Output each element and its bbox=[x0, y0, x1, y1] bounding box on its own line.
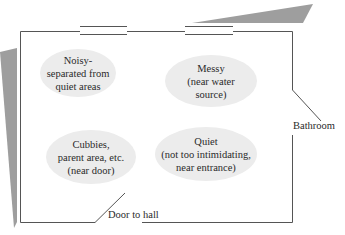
zone-cubbies-label: Cubbies, parent area, etc. (near door) bbox=[58, 138, 124, 177]
floor-plan-drawing bbox=[0, 0, 345, 235]
top-right-shadow bbox=[192, 4, 313, 23]
zone-messy-label: Messy (near water source) bbox=[187, 62, 235, 101]
zone-noisy: Noisy- separated from quiet areas bbox=[40, 49, 116, 97]
door-to-hall-label: Door to hall bbox=[108, 209, 159, 220]
zone-noisy-label: Noisy- separated from quiet areas bbox=[47, 54, 110, 93]
zone-cubbies: Cubbies, parent area, etc. (near door) bbox=[46, 130, 136, 184]
left-wall-shadow bbox=[0, 48, 17, 228]
bathroom-label: Bathroom bbox=[293, 120, 335, 131]
zone-quiet-label: Quiet (not too intimidating, near entran… bbox=[161, 135, 251, 174]
zone-messy: Messy (near water source) bbox=[165, 55, 257, 107]
window-right bbox=[185, 27, 233, 35]
bathroom-door-swing bbox=[293, 90, 322, 121]
zone-quiet: Quiet (not too intimidating, near entran… bbox=[150, 127, 262, 181]
window-left bbox=[80, 27, 127, 35]
